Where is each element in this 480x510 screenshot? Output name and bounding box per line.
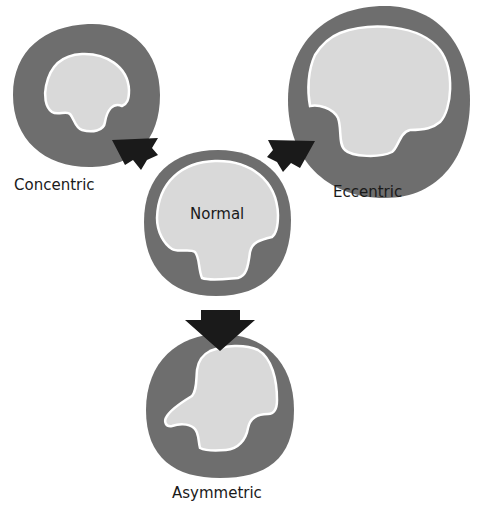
label-eccentric: Eccentric (333, 183, 402, 201)
asymmetric-heart (146, 334, 294, 478)
remodeling-diagram (0, 0, 480, 510)
label-normal: Normal (190, 205, 244, 223)
label-asymmetric: Asymmetric (172, 484, 262, 502)
label-concentric: Concentric (14, 176, 95, 194)
normal-heart (144, 150, 291, 296)
eccentric-heart (288, 6, 470, 198)
